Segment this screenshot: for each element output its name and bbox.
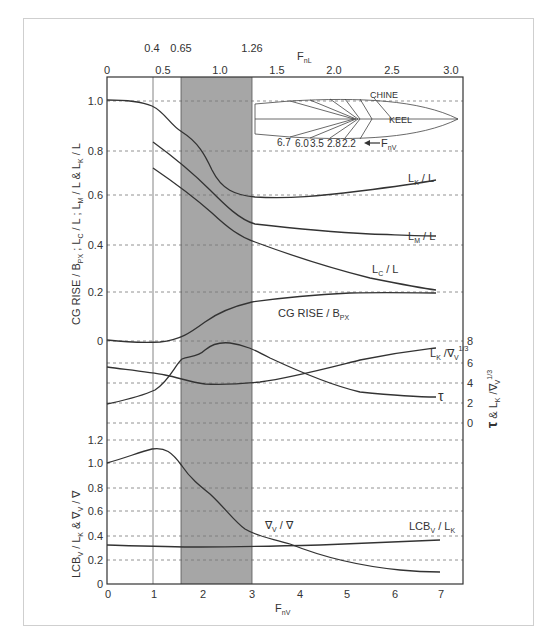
svg-text:1.0: 1.0 [88,457,103,469]
label-tau: τ [438,388,444,404]
bottom-axis: 0 1 2 3 4 5 6 7 FnV [105,588,444,616]
svg-text:0.2: 0.2 [88,554,103,566]
grid-middle [107,363,463,423]
svg-text:6: 6 [467,357,473,369]
svg-text:3: 3 [249,588,255,600]
svg-text:0.6: 0.6 [88,505,103,517]
upper-y-title: CG RISE / BPX ; LC / L ; LM / L & LK / L [70,143,84,325]
svg-text:0.4: 0.4 [144,42,159,54]
label-lk-over-l: LK / L [408,172,434,186]
svg-text:7: 7 [438,588,444,600]
svg-text:6.0: 6.0 [295,138,309,149]
svg-text:3.0: 3.0 [443,64,458,76]
label-lcb-v: LCBV / LK [409,520,455,534]
svg-text:5: 5 [344,588,350,600]
svg-text:2.2: 2.2 [342,138,356,149]
plot-box [107,77,463,584]
lower-y-axis: 1.2 1.0 0.8 0.6 0.4 0.2 0 [88,434,103,590]
svg-text:1.26: 1.26 [241,42,262,54]
svg-text:0.4: 0.4 [88,239,103,251]
curve-cg-rise [107,293,436,343]
label-lc-over-l: LC / L [372,263,398,277]
svg-text:2: 2 [467,397,473,409]
svg-text:6: 6 [392,588,398,600]
svg-text:0.5: 0.5 [155,64,170,76]
top-axis: 0 0.5 1.0 1.5 2.0 2.5 3.0 0.4 0.65 1.26 … [104,42,459,76]
svg-text:2.5: 2.5 [384,64,399,76]
svg-text:1.0: 1.0 [212,64,227,76]
hull-keel-label: KEEL [389,115,412,125]
curve-lcb-v-over-lk [107,540,440,547]
svg-text:0: 0 [97,578,103,590]
svg-text:0.8: 0.8 [88,145,103,157]
lower-y-title: LCBV / LK & ∇V / ∇ [70,490,84,578]
label-lm-over-l: LM / L [408,230,435,244]
svg-text:3.5: 3.5 [310,138,324,149]
svg-text:1: 1 [151,588,157,600]
svg-text:1.5: 1.5 [269,64,284,76]
svg-text:0.4: 0.4 [88,530,103,542]
svg-text:FnL: FnL [297,50,312,64]
svg-text:2.8: 2.8 [327,138,341,149]
hull-fnv-values: 6.7 6.0 3.5 2.8 2.2 [277,137,356,149]
svg-text:0: 0 [467,417,473,429]
curve-nabla-v-over-nabla [107,449,440,572]
label-nabla-v: ∇V / ∇ [264,519,294,533]
middle-y-title: τ & LK /∇V1/3 [484,370,501,428]
svg-text:0.2: 0.2 [88,286,103,298]
svg-text:4: 4 [297,588,303,600]
svg-text:1.2: 1.2 [88,434,103,446]
svg-text:1.0: 1.0 [88,95,103,107]
hull-chine-label: CHINE [370,90,398,100]
upper-y-axis: 1.0 0.8 0.6 0.4 0.2 0 [88,95,103,347]
svg-text:2.0: 2.0 [326,64,341,76]
svg-text:0.6: 0.6 [88,189,103,201]
svg-text:FnV: FnV [275,602,291,616]
label-cg-rise: CG RISE / BPX [278,307,349,321]
svg-text:2: 2 [200,588,206,600]
svg-text:6.7: 6.7 [277,137,291,148]
svg-text:4: 4 [467,377,473,389]
svg-text:0: 0 [104,64,110,76]
svg-text:0: 0 [97,335,103,347]
svg-text:0: 0 [105,588,111,600]
svg-text:0.8: 0.8 [88,482,103,494]
svg-text:0.65: 0.65 [170,42,191,54]
curve-lk-over-nabla [107,348,436,384]
hydrodynamics-chart: 0 0.5 1.0 1.5 2.0 2.5 3.0 0.4 0.65 1.26 … [0,0,554,643]
